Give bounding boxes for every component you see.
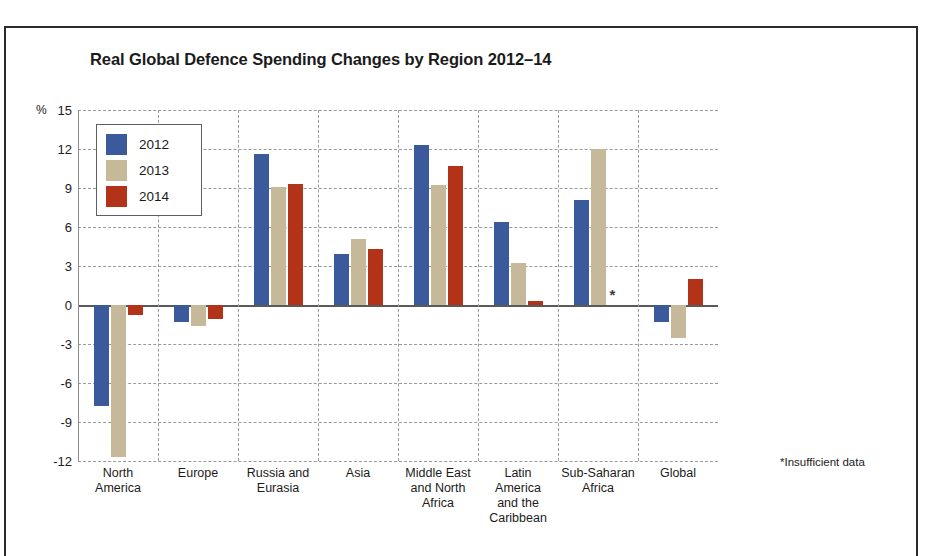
y-tick-label: -12: [53, 454, 72, 469]
bar-group: [318, 110, 398, 461]
category-label: LatinAmericaand theCaribbean: [478, 466, 558, 526]
bar-2014: [448, 166, 463, 305]
legend-swatch-2012: [106, 134, 127, 155]
category-label-line: Europe: [158, 466, 238, 481]
category-label-line: Global: [638, 466, 718, 481]
y-tick-label: 0: [65, 298, 72, 313]
bar-2012: [254, 154, 269, 305]
legend-item-2013: 2013: [106, 159, 169, 181]
category-label: NorthAmerica: [78, 466, 158, 496]
bar-2014: [688, 279, 703, 305]
y-tick-label: 15: [58, 103, 72, 118]
y-tick-label: -3: [60, 337, 72, 352]
chart-legend: 201220132014: [96, 124, 202, 216]
bar-2012: [334, 254, 349, 305]
bar-2013: [431, 185, 446, 305]
category-label-line: Asia: [318, 466, 398, 481]
bar-2013: [191, 305, 206, 326]
x-axis-category-labels: NorthAmericaEuropeRussia andEurasiaAsiaM…: [78, 466, 718, 536]
bar-group: [398, 110, 478, 461]
bar-2013: [591, 149, 606, 305]
legend-label: 2012: [139, 137, 169, 152]
bar-2014: [128, 305, 143, 315]
category-label-line: Middle East: [398, 466, 478, 481]
chart-title: Real Global Defence Spending Changes by …: [90, 50, 551, 69]
bar-2014: [288, 184, 303, 305]
y-axis-tick-labels: 15129630-3-6-9-12: [30, 110, 72, 461]
category-label: Middle Eastand NorthAfrica: [398, 466, 478, 511]
legend-swatch-2014: [106, 186, 127, 207]
category-label: Russia andEurasia: [238, 466, 318, 496]
category-label-line: Latin: [478, 466, 558, 481]
bar-2014: [208, 305, 223, 319]
category-label-line: America: [78, 481, 158, 496]
bar-2012: [574, 200, 589, 305]
category-label-line: America: [478, 481, 558, 496]
y-tick-label: 12: [58, 142, 72, 157]
bar-2012: [174, 305, 189, 322]
bar-2012: [494, 222, 509, 305]
footnote-insufficient-data: *Insufficient data: [780, 456, 865, 468]
gridline: [78, 461, 718, 462]
category-label-line: Russia and: [238, 466, 318, 481]
bar-2012: [94, 305, 109, 406]
bar-2013: [271, 187, 286, 305]
legend-swatch-2013: [106, 160, 127, 181]
y-tick-label: 3: [65, 259, 72, 274]
legend-label: 2013: [139, 163, 169, 178]
legend-item-2014: 2014: [106, 185, 169, 207]
category-label-line: North: [78, 466, 158, 481]
y-tick-label: -6: [60, 376, 72, 391]
bar-2013: [511, 263, 526, 305]
bar-2012: [654, 305, 669, 322]
bar-2012: [414, 145, 429, 305]
bar-2014: [528, 301, 543, 305]
category-label-line: Eurasia: [238, 481, 318, 496]
category-label: Europe: [158, 466, 238, 481]
category-label-line: Africa: [558, 481, 638, 496]
insufficient-data-marker: *: [610, 287, 616, 302]
bar-2014: [368, 249, 383, 305]
y-tick-label: 9: [65, 181, 72, 196]
bar-2013: [671, 305, 686, 338]
category-label-line: and the: [478, 496, 558, 511]
y-tick-label: -9: [60, 415, 72, 430]
bar-2013: [111, 305, 126, 457]
bar-group: *: [558, 110, 638, 461]
legend-label: 2014: [139, 189, 169, 204]
bar-group: [238, 110, 318, 461]
bar-group: [478, 110, 558, 461]
category-label-line: and North: [398, 481, 478, 496]
legend-item-2012: 2012: [106, 133, 169, 155]
category-label-line: Sub-Saharan: [558, 466, 638, 481]
category-label-line: Africa: [398, 496, 478, 511]
category-label: Asia: [318, 466, 398, 481]
bar-2013: [351, 239, 366, 305]
category-label: Global: [638, 466, 718, 481]
category-label-line: Caribbean: [478, 511, 558, 526]
bar-group: [638, 110, 718, 461]
category-label: Sub-SaharanAfrica: [558, 466, 638, 496]
y-tick-label: 6: [65, 220, 72, 235]
